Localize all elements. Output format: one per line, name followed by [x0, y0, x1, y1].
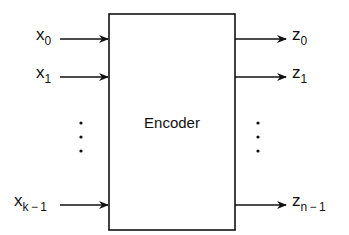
input-label-x1: x1 [36, 63, 52, 86]
encoder-label: Encoder [144, 114, 200, 131]
output-label-zn-1: zn − 1 [292, 191, 326, 214]
input-label-xk-1: xk − 1 [14, 191, 47, 214]
output-label-z0: z0 [292, 25, 308, 48]
output-label-z1: z1 [292, 63, 308, 86]
output-ellipsis-icon [256, 121, 259, 152]
input-label-x0: x0 [36, 25, 52, 48]
input-ellipsis-icon [79, 121, 82, 152]
encoder-diagram: Encoder x0 x1 xk − 1 z0 z1 zn − 1 [0, 0, 349, 235]
